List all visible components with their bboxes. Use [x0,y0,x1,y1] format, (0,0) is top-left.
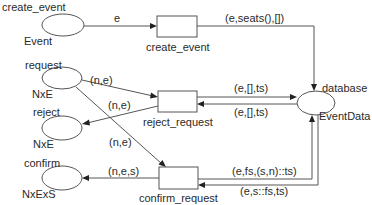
petri-net-diagram: create_event Event request NxE reject Nx… [0,0,372,205]
transition-confirm-request-label: confirm_request [139,192,218,204]
arc-inscription-create-db: (e,seats(),[]) [225,12,284,24]
arc-inscription-request-reject: (n,e) [90,74,113,86]
arc-inscription-confirm-out: (n,e,s) [108,165,139,177]
place-reject[interactable] [42,116,82,140]
arc-create-event-in [84,23,157,29]
arc-inscription-db-to-reject: (e,[],ts) [234,106,268,118]
transition-create-event[interactable] [157,16,197,37]
arc-inscription-request-confirm: (n,e) [109,136,132,148]
place-reject-colorset: NxE [33,138,54,150]
arc-inscription-e: e [114,12,120,24]
place-reject-label: reject [33,106,60,118]
arc-database-to-confirm-request [198,115,318,188]
place-confirm[interactable] [42,166,82,190]
transition-reject-request-label: reject_request [143,116,213,128]
transition-confirm-request[interactable] [159,167,198,189]
place-request-label: request [25,59,62,71]
place-create-event-label: create_event [2,1,66,13]
place-confirm-colorset: NxExS [22,188,56,200]
arc-reject-request-to-database [197,94,297,100]
arc-inscription-db-to-confirm: (e,s::fs,ts) [240,185,288,197]
place-request-colorset: NxE [32,88,53,100]
arc-inscription-reject-to-db: (e,[],ts) [234,82,268,94]
place-create-event-colorset: Event [24,35,52,47]
arc-inscription-reject-out: (n,e) [108,99,131,111]
place-create-event[interactable] [42,14,84,36]
place-confirm-label: confirm [24,157,60,169]
place-database-colorset: EventData [319,110,371,122]
place-database-label: database [322,82,367,94]
transition-create-event-label: create_event [146,41,210,53]
arc-inscription-confirm-to-db: (e,fs,(s,n)::ts) [232,165,297,177]
transition-reject-request[interactable] [158,91,197,112]
